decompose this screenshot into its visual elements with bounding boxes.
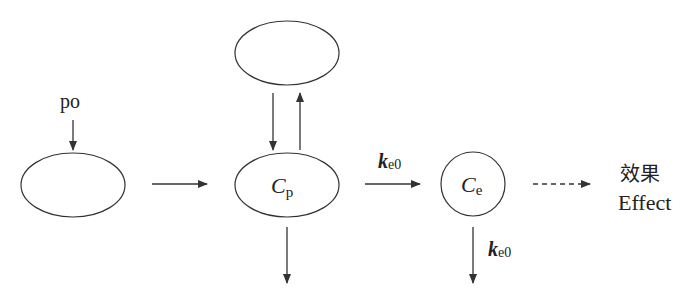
ke0-top-main: k [378, 150, 388, 172]
ke0-label-top: ke0 [378, 150, 401, 172]
central-label: Cp [271, 173, 293, 200]
peripheral-compartment [235, 21, 339, 85]
central-label-sub: p [286, 184, 294, 200]
effect-label: Ce [461, 172, 483, 198]
absorption-compartment [21, 153, 125, 217]
ke0-label-bottom: ke0 [488, 238, 511, 260]
ke0-top-sub: e0 [388, 157, 401, 172]
outcome-label-cn: 效果 [620, 163, 660, 185]
ke0-bottom-sub: e0 [498, 245, 511, 260]
pk-diagram: po Cp ke0 Ce ke0 效果 Effect [0, 0, 692, 307]
central-label-main: C [271, 173, 286, 198]
ke0-bottom-main: k [488, 238, 498, 260]
effect-label-sub: e [476, 182, 483, 198]
outcome-label-en: Effect [618, 190, 671, 215]
effect-label-main: C [461, 172, 476, 197]
po-label: po [60, 90, 80, 113]
